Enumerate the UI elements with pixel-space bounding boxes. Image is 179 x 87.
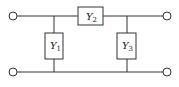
terminal-top-left	[9, 12, 17, 20]
pi-network-diagram: Y2 Y1 Y3	[0, 0, 179, 87]
terminal-top-right	[163, 12, 171, 20]
terminal-bottom-left	[9, 68, 17, 76]
terminal-bottom-right	[163, 68, 171, 76]
